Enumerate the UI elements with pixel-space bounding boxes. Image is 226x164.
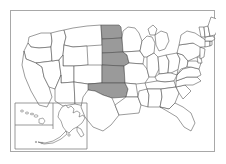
- contiguous-states-group: [22, 17, 216, 131]
- alaska-isle-kodiak: [68, 134, 70, 136]
- hawaii-isle-kauai: [21, 110, 24, 112]
- hawaii-isle-big-island: [39, 118, 45, 124]
- state-WY[interactable]: [63, 45, 88, 66]
- alaska-panhandle: [77, 127, 84, 137]
- state-KY[interactable]: [155, 73, 177, 82]
- state-AL[interactable]: [147, 89, 162, 107]
- state-NE[interactable]: [102, 52, 129, 66]
- state-SD[interactable]: [102, 38, 123, 53]
- state-IL[interactable]: [147, 53, 159, 77]
- state-ND[interactable]: [101, 25, 122, 39]
- state-MN[interactable]: [122, 27, 142, 52]
- state-SC[interactable]: [176, 85, 191, 99]
- state-CT[interactable]: [205, 41, 210, 47]
- state-WA[interactable]: [28, 33, 52, 48]
- state-NJ[interactable]: [200, 47, 205, 59]
- state-ME[interactable]: [208, 17, 216, 36]
- hawaii-isle-molokai: [30, 113, 34, 115]
- us-choropleth-map-figure: [0, 0, 226, 164]
- state-MT[interactable]: [64, 25, 102, 47]
- state-LA[interactable]: [115, 97, 141, 115]
- map-frame-border: [10, 10, 215, 152]
- hawaii-isle-maui: [34, 115, 38, 117]
- inset-panel-group: [15, 103, 87, 149]
- alaska-isle-outer-b: [35, 141, 36, 142]
- inset-hawaii[interactable]: [21, 110, 46, 124]
- state-RI[interactable]: [210, 41, 212, 46]
- state-MO[interactable]: [124, 63, 149, 84]
- state-CO[interactable]: [74, 65, 102, 84]
- alaska-isle-outer-a: [41, 142, 43, 144]
- hawaii-isle-oahu: [25, 112, 28, 114]
- inset-alaska[interactable]: [35, 105, 85, 144]
- us-map-svg: [11, 11, 216, 153]
- state-KS[interactable]: [102, 65, 125, 83]
